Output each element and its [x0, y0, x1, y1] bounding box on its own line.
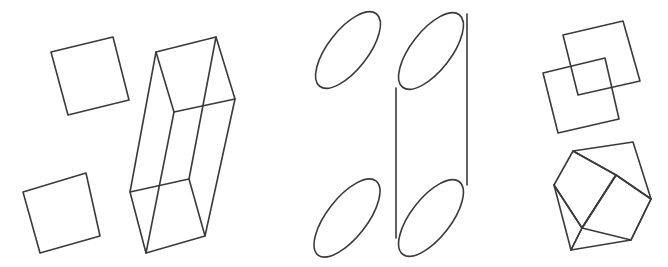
geometric-figure-canvas — [0, 0, 668, 267]
